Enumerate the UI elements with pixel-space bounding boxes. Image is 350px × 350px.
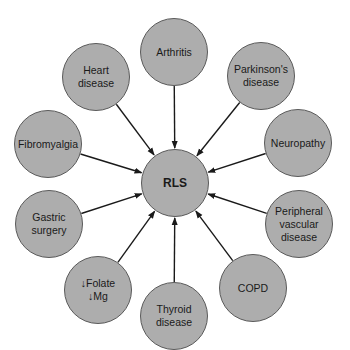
arrow-gastric-surgery-to-rls	[81, 194, 141, 214]
node-parkinsons: Parkinson's disease	[227, 42, 295, 110]
arrow-peripheral-vascular-to-rls	[208, 194, 266, 213]
node-peripheral-vascular: Peripheral vascular disease	[265, 190, 333, 258]
arrow-neuropathy-to-rls	[208, 154, 265, 173]
node-folate-mg: ↓Folate ↓Mg	[64, 256, 132, 324]
node-heart-disease: Heart disease	[62, 43, 130, 111]
arrow-fibromyalgia-to-rls	[81, 154, 142, 173]
node-copd: COPD	[219, 254, 287, 322]
node-neuropathy: Neuropathy	[264, 109, 332, 177]
node-gastric-surgery: Gastric surgery	[15, 190, 83, 258]
node-rls-center: RLS	[141, 149, 209, 217]
arrow-folate-mg-to-rls	[118, 211, 155, 262]
node-thyroid: Thyroid disease	[140, 282, 208, 350]
node-arthritis: Arthritis	[140, 18, 208, 86]
arrow-heart-disease-to-rls	[116, 104, 154, 155]
arrow-copd-to-rls	[196, 211, 233, 261]
node-fibromyalgia: Fibromyalgia	[14, 110, 82, 178]
arrow-parkinsons-to-rls	[197, 103, 240, 156]
